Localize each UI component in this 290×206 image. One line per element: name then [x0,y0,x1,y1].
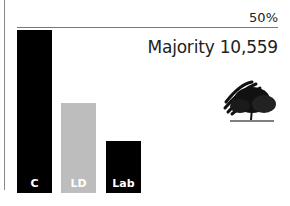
bar-ld: LD [61,103,96,193]
fifty-percent-line [17,27,278,28]
oak-tree-icon [222,76,280,124]
bar-label: Lab [112,177,134,193]
bar-c: C [17,30,52,193]
bar-label: C [30,177,38,193]
threshold-label: 50% [249,10,278,25]
bar-lab: Lab [106,141,141,193]
majority-label: Majority 10,559 [147,37,278,57]
bar-label: LD [70,177,86,193]
left-border [4,0,5,190]
